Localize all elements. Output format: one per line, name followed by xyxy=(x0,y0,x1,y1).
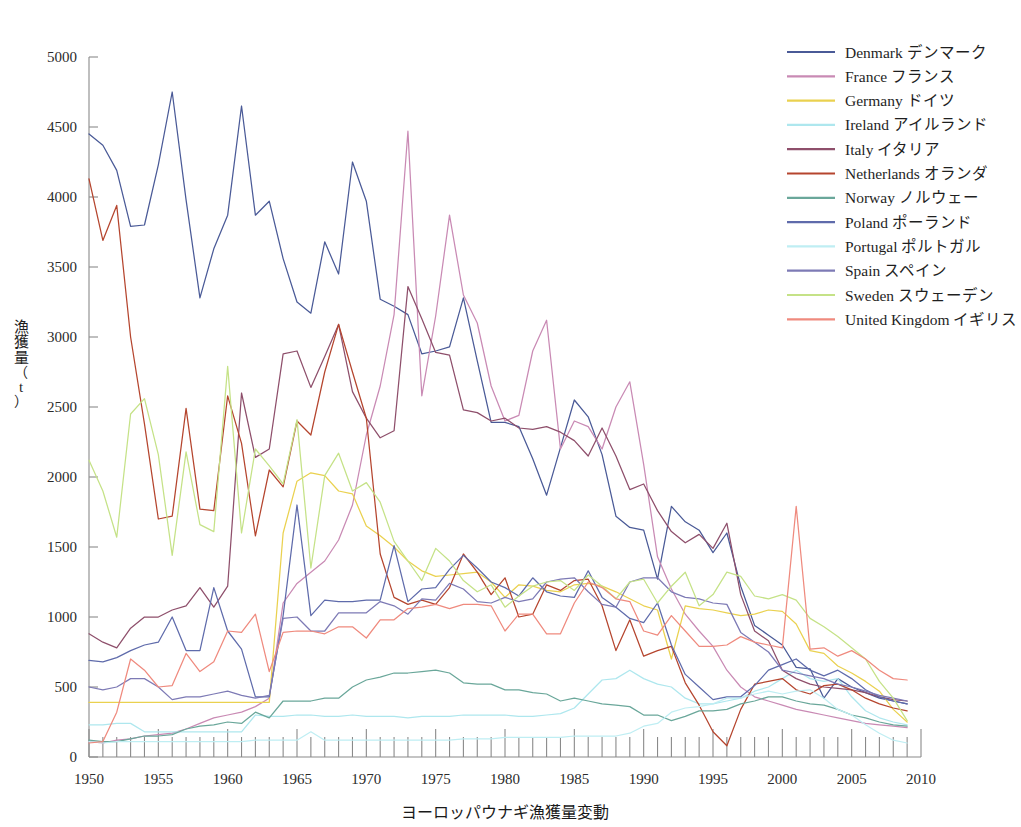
y-tick-label: 4000 xyxy=(47,189,77,205)
y-tick-label: 4500 xyxy=(47,119,77,135)
x-tick-label: 1955 xyxy=(143,771,173,787)
series-line-ireland xyxy=(89,670,907,732)
legend-label-france[interactable]: France フランス xyxy=(845,68,955,85)
legend-label-netherlands[interactable]: Netherlands オランダ xyxy=(845,165,988,182)
legend-label-norway[interactable]: Norway ノルウェー xyxy=(845,189,979,206)
x-tick-label: 2010 xyxy=(906,771,936,787)
y-tick-label: 3500 xyxy=(47,259,77,275)
legend-label-italy[interactable]: Italy イタリア xyxy=(845,141,940,158)
legend-label-denmark[interactable]: Denmark デンマーク xyxy=(845,43,987,61)
legend-label-poland[interactable]: Poland ポーランド xyxy=(845,214,972,231)
chart-container: 漁獲量（t） 050010001500200025003000350040004… xyxy=(0,0,1021,827)
legend-label-sweden[interactable]: Sweden スウェーデン xyxy=(845,286,994,304)
line-chart-plot: 0500100015002000250030003500400045005000… xyxy=(0,0,1021,827)
series-line-united-kingdom xyxy=(89,506,907,743)
legend-label-united-kingdom[interactable]: United Kingdom イギリス xyxy=(845,311,1018,328)
x-tick-label: 2005 xyxy=(837,771,867,787)
series-line-italy xyxy=(89,287,907,701)
x-tick-label: 1980 xyxy=(490,771,520,787)
series-group xyxy=(89,92,907,746)
x-tick-label: 1990 xyxy=(629,771,659,787)
series-line-denmark xyxy=(89,92,907,704)
y-tick-label: 0 xyxy=(70,749,78,765)
legend-label-germany[interactable]: Germany ドイツ xyxy=(845,92,955,109)
y-tick-label: 1000 xyxy=(47,609,77,625)
legend-label-portugal[interactable]: Portugal ポルトガル xyxy=(845,238,981,255)
x-tick-label: 1960 xyxy=(213,771,243,787)
x-tick-label: 1965 xyxy=(282,771,312,787)
y-tick-label: 2500 xyxy=(47,399,77,415)
y-tick-label: 2000 xyxy=(47,469,77,485)
legend-label-spain[interactable]: Spain スペイン xyxy=(845,262,947,279)
x-tick-label: 2000 xyxy=(767,771,797,787)
x-tick-label: 1995 xyxy=(698,771,728,787)
series-line-netherlands xyxy=(89,179,907,746)
x-tick-label: 1985 xyxy=(559,771,589,787)
legend-label-ireland[interactable]: Ireland アイルランド xyxy=(845,116,988,133)
y-tick-label: 500 xyxy=(55,679,78,695)
y-tick-label: 5000 xyxy=(47,49,77,65)
y-tick-label: 3000 xyxy=(47,329,77,345)
x-tick-label: 1950 xyxy=(74,771,104,787)
x-tick-label: 1975 xyxy=(421,771,451,787)
legend: Denmark デンマークFrance フランスGermany ドイツIrela… xyxy=(787,43,1018,328)
y-tick-label: 1500 xyxy=(47,539,77,555)
series-line-france xyxy=(89,131,907,743)
x-tick-label: 1970 xyxy=(351,771,381,787)
chart-title: ヨーロッパウナギ漁獲量変動 xyxy=(401,804,609,821)
